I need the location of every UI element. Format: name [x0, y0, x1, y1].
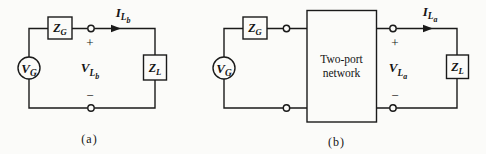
terminal-output-top-b	[390, 25, 396, 31]
current-arrow-b	[423, 25, 433, 32]
terminal-bottom-a	[88, 105, 94, 111]
terminal-input-bottom-b	[283, 105, 289, 111]
load-impedance-label-b: ZL	[451, 61, 464, 73]
generator-impedance-label-a: ZG	[53, 22, 67, 34]
load-voltage-label-a: VLb	[81, 61, 99, 76]
generator-impedance-label-b: ZG	[248, 22, 262, 34]
caption-a: (a)	[81, 133, 97, 145]
load-voltage-label-b: VLa	[389, 61, 407, 76]
two-port-circuit-figure: VG ZG ZL ILb + VLb − (a) VG ZG Two-port …	[0, 0, 486, 154]
source-subscript-a: G	[30, 68, 37, 78]
caption-b: (b)	[328, 136, 345, 148]
source-label-b: VG	[216, 62, 231, 75]
terminal-top-a	[88, 25, 94, 31]
source-subscript-b: G	[225, 68, 232, 78]
load-current-label-a: ILb	[116, 6, 131, 21]
load-current-label-b: ILa	[423, 5, 438, 20]
source-symbol-a: V	[21, 61, 30, 76]
plus-sign-a: +	[86, 35, 93, 48]
terminal-input-top-b	[283, 25, 289, 31]
minus-sign-a: −	[86, 89, 93, 102]
current-arrow-a	[111, 25, 121, 32]
terminal-output-bottom-b	[390, 105, 396, 111]
source-label-a: VG	[21, 62, 36, 75]
two-port-line1: Two-port	[320, 51, 363, 65]
plus-sign-b: +	[391, 35, 398, 48]
two-port-network-label: Two-port network	[320, 51, 363, 80]
source-symbol-b: V	[216, 61, 225, 76]
minus-sign-b: −	[391, 89, 398, 102]
load-impedance-label-a: ZL	[149, 62, 162, 74]
two-port-line2: network	[320, 66, 363, 80]
circuit-svg	[0, 0, 486, 154]
